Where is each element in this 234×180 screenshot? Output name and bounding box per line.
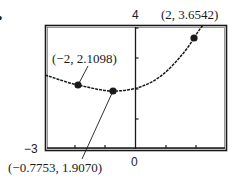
point-min <box>109 87 116 94</box>
function-curve <box>45 25 203 91</box>
plot-area <box>0 0 234 180</box>
point-left <box>74 81 81 88</box>
leader-min <box>82 91 113 159</box>
point-right <box>190 34 197 41</box>
